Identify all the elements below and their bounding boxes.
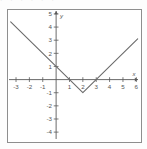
graph-figure: · · · · · · -3-2-1123456-4-3-2-112345 xy <box>0 0 147 149</box>
x-axis-label: x <box>132 71 137 77</box>
tick-labels-group: -3-2-1123456-4-3-2-112345 <box>13 10 138 135</box>
x-tick-label: 6 <box>135 83 139 90</box>
top-ghost-text-strip: · · · · · · <box>0 0 147 8</box>
x-tick-label: -1 <box>40 83 46 90</box>
y-tick-label: -1 <box>46 89 52 96</box>
ticks-group <box>16 14 136 132</box>
axes-group <box>9 11 138 139</box>
plot-frame: -3-2-1123456-4-3-2-112345 xy <box>7 9 142 143</box>
y-tick-label: 1 <box>48 63 52 70</box>
y-tick-label: -2 <box>46 102 52 109</box>
x-tick-label: 2 <box>81 83 85 90</box>
plot-area: -3-2-1123456-4-3-2-112345 xy <box>8 10 141 142</box>
y-tick-label: 4 <box>48 23 52 30</box>
y-tick-label: -3 <box>46 115 52 122</box>
y-tick-label: 3 <box>48 36 52 43</box>
x-tick-label: 3 <box>94 83 98 90</box>
y-tick-label: -4 <box>46 128 52 135</box>
series-line <box>11 22 138 93</box>
axis-labels-group: xy <box>59 13 136 78</box>
y-tick-label: 5 <box>48 10 52 17</box>
x-tick-label: -3 <box>13 83 19 90</box>
y-axis-label: y <box>59 13 64 19</box>
ghost-text: · · · · · · <box>0 0 57 4</box>
x-tick-label: -2 <box>27 83 33 90</box>
x-tick-label: 1 <box>68 83 72 90</box>
coordinate-plane-svg: -3-2-1123456-4-3-2-112345 xy <box>8 10 139 140</box>
x-tick-label: 4 <box>108 83 112 90</box>
y-tick-label: 2 <box>48 50 52 57</box>
data-series-group <box>11 22 138 93</box>
x-tick-label: 5 <box>121 83 125 90</box>
